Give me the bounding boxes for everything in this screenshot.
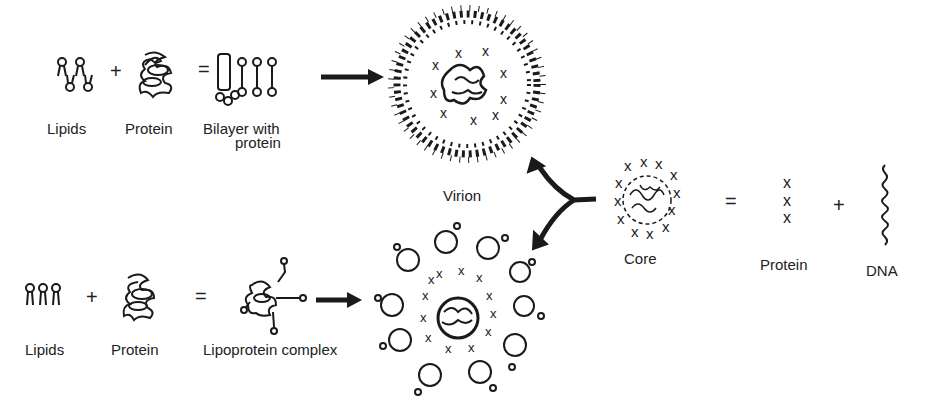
svg-text:x: x [458,263,465,278]
svg-text:x: x [425,330,432,345]
svg-text:x: x [631,223,639,240]
arrow-to-virion [321,69,384,85]
core-equals-sign: = [725,190,737,213]
svg-text:x: x [445,341,452,356]
dna-coil-icon [882,165,888,245]
svg-text:x: x [617,210,625,227]
arrow-to-lipoprotein-particle [316,292,362,308]
svg-text:x: x [670,166,678,183]
svg-text:x: x [646,225,654,242]
plus-sign: + [110,60,122,83]
svg-text:x: x [428,272,435,287]
lipoprotein-complex-icon [241,258,306,334]
label-lipoprotein-complex: Lipoprotein complex [203,341,337,358]
svg-text:x: x [482,43,489,59]
core-icon: xxx xxx xxx xxx [614,153,681,242]
svg-text:x: x [640,153,648,170]
svg-text:x: x [668,201,676,218]
equals-sign: = [198,58,210,81]
svg-text:x: x [624,157,632,174]
label-dna: DNA [866,262,898,279]
lipids-icon [58,58,92,91]
bilayer-with-protein-icon [216,54,276,105]
svg-text:x: x [662,218,670,235]
protein-coil-icon-bottom [124,274,154,320]
svg-text:x: x [476,270,483,285]
label-virion: Virion [443,187,481,204]
svg-text:x: x [436,266,443,281]
svg-text:x: x [440,105,447,121]
label-bilayer-protein: protein [235,134,281,151]
lipids-icon-bottom [26,284,60,305]
label-lipids-top: Lipids [47,120,86,137]
svg-text:x: x [783,174,791,191]
svg-text:x: x [432,57,439,73]
label-core-protein: Protein [760,256,808,273]
svg-text:x: x [468,340,475,355]
svg-text:x: x [614,192,622,209]
label-core: Core [624,250,657,267]
branching-arrows [528,158,596,249]
svg-text:x: x [420,310,427,325]
svg-text:x: x [615,174,623,191]
svg-text:x: x [485,324,492,339]
svg-text:x: x [655,155,663,172]
svg-text:x: x [783,192,791,209]
label-protein-bottom: Protein [111,341,159,358]
svg-text:x: x [492,107,499,123]
svg-text:x: x [673,184,681,201]
svg-text:x: x [783,209,791,226]
svg-text:x: x [486,288,493,303]
svg-text:x: x [490,306,497,321]
plus-sign-bottom: + [86,286,98,309]
label-protein-top: Protein [125,120,173,137]
svg-text:x: x [422,288,429,303]
svg-text:x: x [500,91,507,107]
core-plus-sign: + [833,194,845,217]
lipoprotein-particle-icon: xxx xxx xxx xxx [375,223,544,395]
virion-icon: xxx xxx xxx [391,8,543,160]
svg-text:x: x [500,65,507,81]
protein-x-icon: xxx [783,174,791,226]
protein-coil-icon [140,52,172,97]
equals-sign-bottom: = [195,285,207,308]
svg-text:x: x [470,112,477,128]
svg-text:x: x [455,45,462,61]
svg-text:x: x [430,85,437,101]
label-lipids-bottom: Lipids [25,341,64,358]
